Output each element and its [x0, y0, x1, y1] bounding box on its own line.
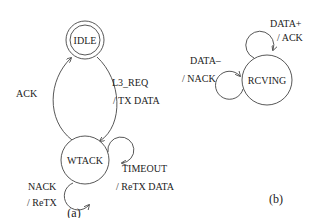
- caption-b: (b): [269, 192, 283, 206]
- state-wtack-label: WTACK: [67, 155, 104, 166]
- state-diagrams: IDLE WTACK ACK L3_REQ / TX DATA TIMEOUT …: [0, 0, 316, 218]
- transition-timeout-loop: [108, 137, 134, 163]
- transition-data-plus-action: / ACK: [277, 32, 304, 43]
- state-idle-label: IDLE: [74, 35, 97, 46]
- transition-ack-label: ACK: [16, 88, 38, 99]
- transition-l3-req-action: / TX DATA: [113, 95, 161, 106]
- transition-l3-req-event: L3_REQ: [112, 77, 149, 88]
- transition-data-minus-event: DATA–: [190, 55, 222, 66]
- transition-data-plus-event: DATA+: [270, 18, 302, 29]
- transition-timeout-action: / ReTX DATA: [116, 181, 175, 192]
- transition-data-minus-loop: [216, 71, 243, 99]
- transition-ack-edge: [53, 58, 72, 140]
- diagram-b: RCVING DATA+ / ACK DATA– / NACK (b): [182, 18, 304, 206]
- transition-data-minus-action: / NACK: [182, 73, 216, 84]
- caption-a: (a): [67, 206, 80, 218]
- transition-nack-action: / ReTX: [27, 197, 57, 208]
- state-rcving: RCVING: [242, 55, 292, 105]
- state-rcving-label: RCVING: [248, 75, 286, 86]
- transition-nack-event: NACK: [28, 181, 57, 192]
- state-wtack: WTACK: [61, 136, 109, 184]
- transition-data-plus-loop: [246, 31, 274, 58]
- transition-timeout-event: TIMEOUT: [122, 163, 167, 174]
- state-idle: IDLE: [66, 21, 104, 59]
- diagram-a: IDLE WTACK ACK L3_REQ / TX DATA TIMEOUT …: [16, 21, 175, 218]
